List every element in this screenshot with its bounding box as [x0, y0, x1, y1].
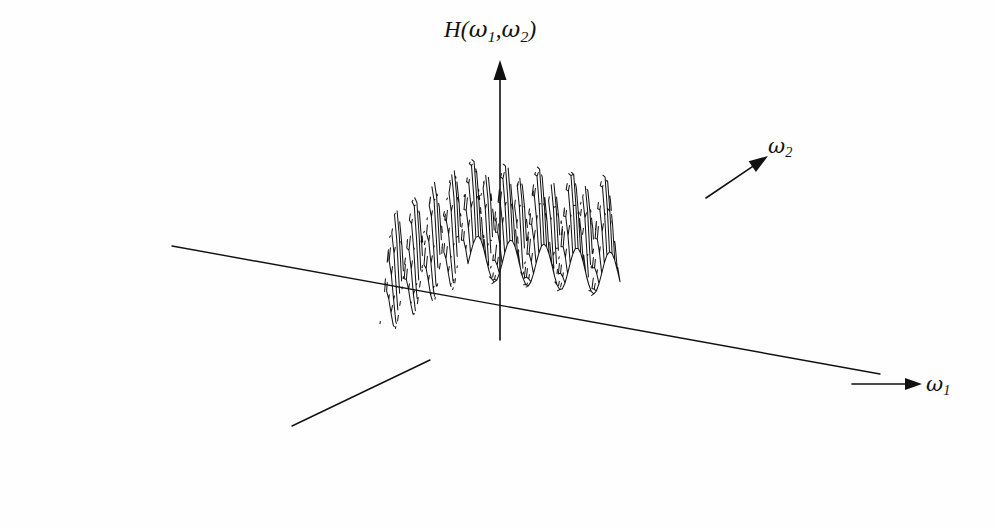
vertical-axis-label-close: ) [529, 17, 537, 42]
vertical-axis-label-sub1: 1 [488, 28, 496, 45]
figure-canvas: H(ω1,ω2) ω2 ω1 [0, 0, 995, 529]
axis-label-omega2-subscript: 2 [785, 144, 792, 160]
vertical-axis-label-sub2: 2 [521, 28, 529, 45]
axis-label-omega1-subscript: 1 [943, 382, 950, 398]
vertical-axis-label-omega2: ω [502, 16, 521, 42]
axis-label-omega1-glyph: ω [926, 372, 943, 396]
axis-label-omega2-glyph: ω [768, 134, 785, 158]
vertical-axis-label: H(ω1,ω2) [444, 18, 536, 44]
vertical-axis-label-omega1: ω [469, 16, 488, 42]
axis-label-omega2: ω2 [768, 136, 792, 160]
vertical-axis-label-h: H [444, 17, 461, 42]
vertical-axis-label-open: ( [461, 17, 469, 42]
axis-label-omega1: ω1 [926, 374, 950, 398]
wireframe-surface-plot [0, 0, 995, 529]
